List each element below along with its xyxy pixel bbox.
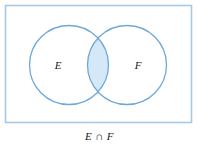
venn-diagram-canvas: E F: [0, 0, 199, 130]
set-label-f: F: [134, 59, 142, 71]
figure-caption: E ∩ F: [0, 130, 199, 142]
set-label-e: E: [54, 59, 62, 71]
venn-diagram-figure: E F E ∩ F: [0, 0, 199, 153]
